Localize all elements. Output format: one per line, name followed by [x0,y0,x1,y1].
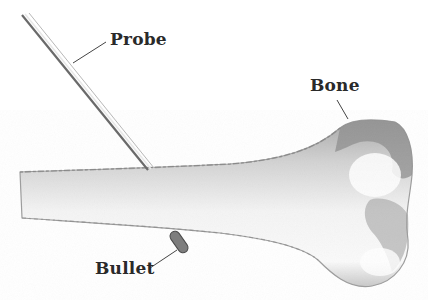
bullet-label: Bullet [95,258,155,278]
diagram-canvas: Probe Bone Bullet [0,0,428,303]
probe-leader-line [73,42,106,63]
bone-shape [0,110,428,300]
probe-label: Probe [110,29,167,49]
bone-illustration [0,0,428,303]
bone-label: Bone [310,75,360,95]
